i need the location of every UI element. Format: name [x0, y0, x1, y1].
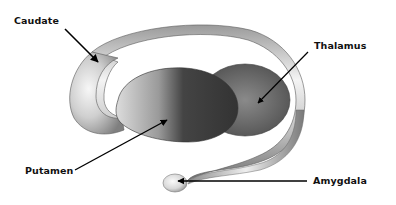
caudate-label: Caudate	[14, 15, 59, 26]
amygdala-label: Amygdala	[313, 175, 367, 186]
thalamus-label: Thalamus	[314, 40, 366, 51]
putamen-structure	[116, 68, 238, 142]
putamen-label: Putamen	[25, 165, 73, 176]
caudate-arrow	[65, 29, 98, 62]
amygdala-structure	[163, 174, 187, 192]
